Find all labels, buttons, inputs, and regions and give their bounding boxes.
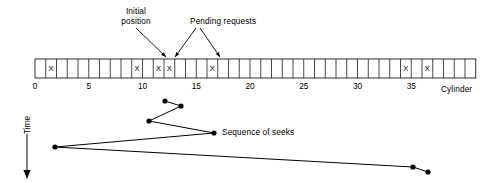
cylinder-tick-label: 15 xyxy=(184,82,208,91)
seek-point xyxy=(178,103,183,108)
cylinder-tick-label: 5 xyxy=(77,82,101,91)
figure-vector-layer xyxy=(0,0,494,183)
time-axis-arrow xyxy=(23,134,30,179)
seek-sequence-path xyxy=(52,98,430,174)
cylinder-request-mark: X xyxy=(401,64,412,73)
cylinder-tick-label: 20 xyxy=(238,82,262,91)
cylinder-tick-label: 10 xyxy=(131,82,155,91)
seek-point xyxy=(162,98,167,103)
seek-point xyxy=(52,144,57,149)
seek-point xyxy=(211,130,216,135)
pending-requests-arrow-right xyxy=(200,28,220,57)
cylinder-request-mark: X xyxy=(422,64,433,73)
cylinder-tick-label: 35 xyxy=(399,82,423,91)
seek-point xyxy=(410,164,415,169)
cylinder-request-mark: X xyxy=(153,64,164,73)
cylinder-tick-label: 30 xyxy=(346,82,370,91)
cylinder-tick-label: 25 xyxy=(292,82,316,91)
cylinder-tick-label: 0 xyxy=(23,82,47,91)
seek-point xyxy=(146,118,151,123)
cylinder-request-mark: X xyxy=(207,64,218,73)
pending-requests-arrow-left xyxy=(175,28,196,57)
initial-position-arrow xyxy=(136,28,166,57)
seek-point xyxy=(425,169,430,174)
pending-requests-arrow-left-head xyxy=(175,52,179,57)
figure-canvas: Initial position Pending requests Sequen… xyxy=(0,0,494,183)
pending-requests-arrow-right-head xyxy=(216,52,220,57)
cylinder-request-mark: X xyxy=(164,64,175,73)
seek-polyline xyxy=(55,101,428,172)
cylinder-request-mark: X xyxy=(46,64,57,73)
cylinder-request-mark: X xyxy=(132,64,143,73)
annotation-arrow-group xyxy=(136,28,220,57)
